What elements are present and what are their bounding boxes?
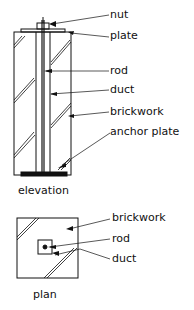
- elevation-drawing: [14, 15, 110, 176]
- label-anchor-plate: anchor plate: [110, 126, 179, 138]
- plan-label-rod: rod: [112, 233, 130, 245]
- caption-plan: plan: [33, 289, 57, 301]
- plan-brickwork: [17, 218, 78, 278]
- plan-label-duct: duct: [112, 253, 136, 265]
- label-plate: plate: [110, 30, 138, 42]
- caption-elevation: elevation: [18, 185, 69, 197]
- anchor-plate: [21, 172, 67, 176]
- plan-label-brickwork: brickwork: [112, 212, 166, 224]
- label-nut: nut: [110, 9, 128, 21]
- label-brickwork: brickwork: [110, 106, 164, 118]
- plan-rod: [43, 245, 47, 249]
- label-rod: rod: [110, 65, 128, 77]
- plan-drawing: [17, 218, 110, 278]
- leaders: [46, 15, 110, 165]
- post-tensioned-brickwork-diagram: [0, 0, 194, 310]
- nut: [37, 23, 49, 29]
- arrowheads: [44, 21, 74, 168]
- label-duct: duct: [110, 84, 134, 96]
